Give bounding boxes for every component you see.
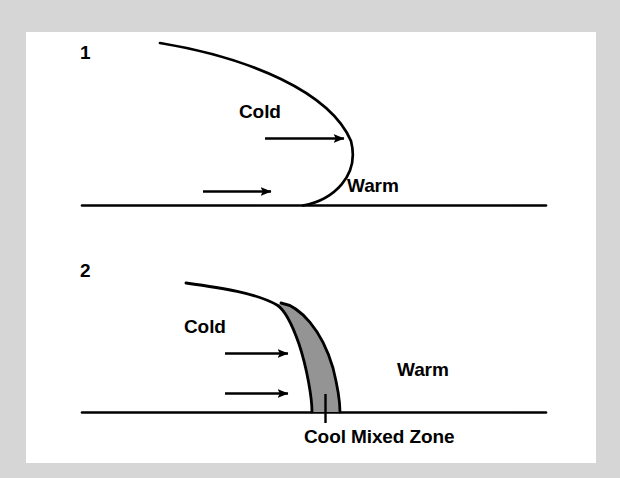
diagram-canvas — [0, 0, 620, 478]
panel-1-stage-number: 1 — [80, 42, 90, 64]
panel-2-warm-label: Warm — [397, 359, 449, 381]
panel-2-cool-mixed-zone-label: Cool Mixed Zone — [304, 426, 455, 448]
panel-1-warm-label: Warm — [347, 175, 399, 197]
weather-front-diagram: 1 Cold Warm 2 Cold Warm Cool Mixed Zone — [0, 0, 620, 478]
panel-1-cold-label: Cold — [239, 101, 281, 123]
panel-2-cold-label: Cold — [184, 316, 226, 338]
panel-2-stage-number: 2 — [80, 260, 90, 282]
